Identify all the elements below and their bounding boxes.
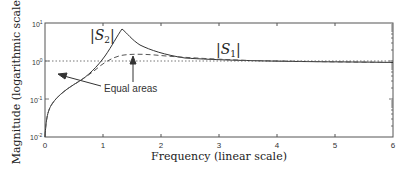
svg-text:3: 3: [217, 141, 222, 150]
svg-text:10-1: 10-1: [30, 95, 42, 104]
y-tick-labels: 101 100 10-1 10-2: [30, 19, 43, 141]
svg-text:|S1|: |S1|: [216, 41, 241, 59]
x-axis-label: Frequency (linear scale): [151, 150, 287, 163]
svg-text:5: 5: [333, 141, 338, 150]
svg-text:1: 1: [101, 141, 106, 150]
s2-label: |S2|: [90, 27, 115, 45]
svg-text:10-2: 10-2: [30, 132, 42, 141]
equal-areas-label: Equal areas: [104, 83, 157, 94]
s1-curve: [45, 54, 393, 137]
svg-text:4: 4: [275, 141, 280, 150]
svg-text:2: 2: [159, 141, 164, 150]
svg-text:101: 101: [32, 19, 43, 28]
x-tick-labels: 0 1 2 3 4 5 6: [43, 141, 396, 150]
chart: Equal areas |S2| |S1| 0 1 2 3 4 5 6 101 …: [0, 0, 406, 172]
svg-text:|S2|: |S2|: [90, 27, 115, 45]
svg-text:6: 6: [391, 141, 396, 150]
svg-text:100: 100: [32, 57, 43, 66]
svg-text:0: 0: [43, 141, 48, 150]
s1-label: |S1|: [216, 41, 241, 59]
y-axis-label: Magnitude (logarithmic scale): [10, 0, 23, 164]
